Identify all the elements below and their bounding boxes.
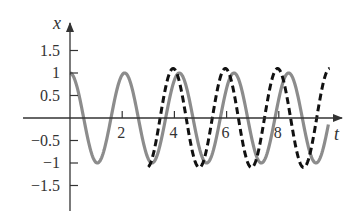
chart: 2468 1.510.5−0.5−1−1.5 t x	[0, 0, 362, 224]
y-tick-label: 1.5	[40, 42, 60, 59]
y-tick-label: 0.5	[40, 87, 60, 104]
x-tick-label: 4	[169, 124, 177, 141]
y-tick-label: −0.5	[31, 132, 60, 149]
y-axis-title: x	[52, 13, 61, 33]
x-tick-label: 8	[274, 124, 282, 141]
y-tick-label: −1.5	[31, 177, 60, 194]
y-tick-label: −1	[43, 154, 60, 171]
y-tick-label: 1	[52, 64, 60, 81]
x-axis-title: t	[334, 124, 340, 144]
x-tick-label: 6	[222, 124, 230, 141]
x-tick-label: 2	[117, 124, 125, 141]
